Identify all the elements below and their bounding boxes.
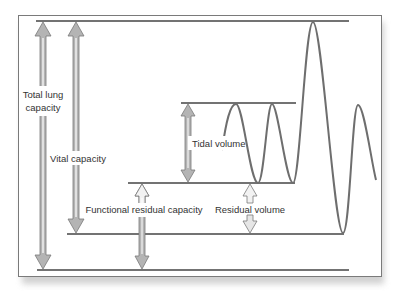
total-lung-capacity-label-line1: Total lung: [23, 89, 64, 100]
functional-residual-capacity-label: Functional residual capacity: [85, 204, 202, 215]
lung-volumes-diagram: Total lung capacity Vital capacity Tidal…: [0, 0, 395, 292]
tidal-volume-label: Tidal volume: [192, 138, 246, 149]
vital-capacity-label: Vital capacity: [50, 153, 106, 164]
total-lung-capacity-label-line2: capacity: [26, 102, 61, 113]
residual-volume-label: Residual volume: [215, 204, 285, 215]
